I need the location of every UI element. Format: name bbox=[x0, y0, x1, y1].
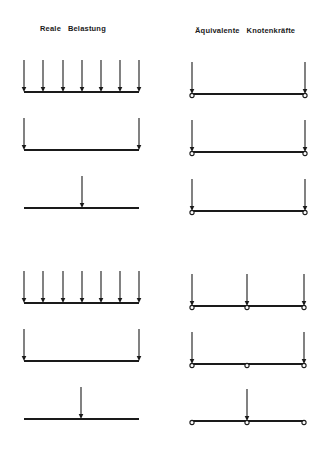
node-circle-icon-6-2 bbox=[245, 420, 249, 424]
node-circle-icon-3-2 bbox=[303, 210, 307, 214]
node-circle-icon-1-2 bbox=[303, 93, 307, 97]
beam-load-diagram bbox=[0, 0, 325, 450]
node-circle-icon-2-1 bbox=[190, 151, 194, 155]
node-circle-icon-5-2 bbox=[245, 363, 249, 367]
node-circle-icon-1-1 bbox=[190, 93, 194, 97]
node-circle-icon-2-2 bbox=[303, 151, 307, 155]
node-circle-icon-4-2 bbox=[245, 305, 249, 309]
node-circle-icon-3-1 bbox=[190, 210, 194, 214]
node-circle-icon-5-1 bbox=[190, 363, 194, 367]
node-circle-icon-6-1 bbox=[190, 420, 194, 424]
node-circle-icon-4-3 bbox=[302, 305, 306, 309]
node-circle-icon-4-1 bbox=[190, 305, 194, 309]
node-circle-icon-6-3 bbox=[302, 420, 306, 424]
node-circle-icon-5-3 bbox=[302, 363, 306, 367]
